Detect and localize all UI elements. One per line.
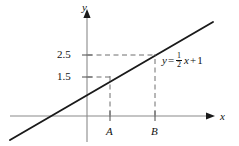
equation-label: y = 1 2 x + 1 — [162, 52, 203, 70]
equation-numerator: 1 — [176, 52, 182, 60]
graph-figure: y x 2.5 1.5 A B y = 1 2 x + 1 — [0, 0, 239, 146]
x-axis-arrowhead — [206, 112, 215, 119]
equation-denominator: 2 — [176, 60, 182, 69]
y-tick-label-2-5: 2.5 — [57, 49, 71, 60]
x-point-label-a: A — [106, 126, 113, 137]
graph-canvas — [0, 0, 239, 146]
x-point-label-b: B — [151, 126, 158, 137]
x-axis-label: x — [220, 111, 225, 122]
equation-plus: + — [190, 55, 196, 66]
equation-lhs: y — [162, 55, 167, 66]
equation-fraction: 1 2 — [176, 52, 182, 70]
y-axis-label: y — [82, 2, 87, 13]
function-line — [10, 22, 213, 140]
equation-constant: 1 — [197, 55, 203, 66]
equation-variable: x — [184, 55, 189, 66]
equation-equals: = — [168, 55, 174, 66]
y-tick-label-1-5: 1.5 — [57, 71, 71, 82]
